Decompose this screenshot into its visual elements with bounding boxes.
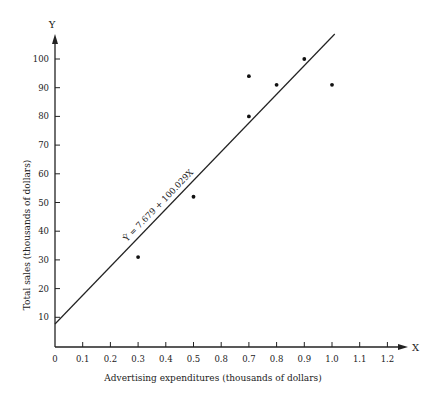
y-tick-label: 50 <box>38 198 49 208</box>
data-point <box>302 57 306 61</box>
x-tick-label: 0.8 <box>270 354 284 364</box>
x-tick-label: 0.1 <box>76 354 90 364</box>
x-axis-arrow-icon <box>398 344 408 350</box>
x-axis-letter: X <box>412 342 420 353</box>
y-tick-label: 70 <box>38 140 49 150</box>
x-tick-label: 0.4 <box>159 354 173 364</box>
data-point <box>275 83 279 87</box>
data-point <box>192 195 196 199</box>
y-axis-label: Total sales (thousands of dollars) <box>22 160 32 311</box>
y-tick-label: 90 <box>38 83 49 93</box>
regression-line <box>55 34 335 324</box>
y-tick-label: 30 <box>38 255 49 265</box>
regression-equation-label: Ŷ = 7.679 + 100.029X <box>120 166 196 244</box>
x-tick-label: 0.7 <box>242 354 256 364</box>
data-point <box>330 83 334 87</box>
y-axis-letter: Y <box>48 19 56 30</box>
x-tick-label: 0.2 <box>104 354 118 364</box>
data-point <box>247 74 251 78</box>
y-tick-label: 80 <box>38 111 49 121</box>
y-tick-label: 100 <box>33 54 49 64</box>
x-tick-label: 0.3 <box>131 354 145 364</box>
x-tick-label: 1.0 <box>325 354 339 364</box>
data-point <box>247 115 251 119</box>
x-tick-label: 0.5 <box>187 354 201 364</box>
y-tick-label: 20 <box>38 284 49 294</box>
chart-canvas: YX00.10.20.30.40.50.80.70.80.91.01.11.21… <box>0 0 427 402</box>
x-tick-label: 0.9 <box>298 354 312 364</box>
scatter-chart: YX00.10.20.30.40.50.80.70.80.91.01.11.21… <box>0 0 427 402</box>
x-tick-label: 0 <box>52 354 57 364</box>
y-tick-label: 10 <box>38 312 49 322</box>
y-tick-label: 40 <box>38 226 49 236</box>
y-tick-label: 60 <box>38 169 49 179</box>
x-tick-label: 1.2 <box>381 354 395 364</box>
data-point <box>136 255 140 259</box>
x-axis-label: Advertising expenditures (thousands of d… <box>103 373 321 383</box>
x-tick-label: 0.8 <box>214 354 228 364</box>
x-tick-label: 1.1 <box>353 354 367 364</box>
y-axis-arrow-icon <box>52 34 58 44</box>
